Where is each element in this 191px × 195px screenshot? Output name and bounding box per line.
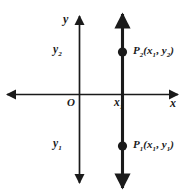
point-label-p1-coord-x: x — [147, 138, 153, 150]
x-axis-label: x — [170, 97, 176, 109]
point-label-p2: P2(x1, y2) — [133, 45, 174, 56]
point-label-p1-subscript: 1 — [140, 145, 143, 152]
point-marker-p2 — [118, 47, 127, 56]
point-label-p2-close-paren: ) — [170, 44, 174, 56]
point-label-p2-coord-y-subscript: 2 — [167, 51, 170, 58]
point-label-p1: P1(x1, y1) — [133, 139, 174, 150]
coordinate-plane-figure: y x O y2 y1 x1 P2(x1, y2) P1(x1, y1) — [0, 0, 191, 195]
point-label-p1-coord-y: y — [162, 138, 167, 150]
point-label-p1-coord-x-subscript: 1 — [153, 145, 156, 152]
point-label-p1-coord-y-subscript: 1 — [167, 145, 170, 152]
tick-label-x1-subscript: 1 — [120, 103, 124, 111]
point-label-p2-subscript: 2 — [140, 51, 143, 58]
origin-label: O — [67, 97, 75, 108]
tick-label-y1: y1 — [53, 138, 62, 150]
point-label-p1-name: P — [133, 138, 140, 150]
point-label-p1-comma: , — [156, 138, 159, 150]
point-label-p2-comma: , — [156, 44, 159, 56]
point-label-p2-coord-x-subscript: 1 — [153, 51, 156, 58]
point-label-p2-name: P — [133, 44, 140, 56]
tick-label-y2-subscript: 2 — [58, 50, 62, 58]
point-label-p1-close-paren: ) — [170, 138, 174, 150]
tick-label-x1-base: x — [114, 96, 120, 108]
y-axis-label: y — [63, 13, 68, 25]
diagram-canvas — [0, 0, 191, 195]
point-label-p2-coord-y: y — [162, 44, 167, 56]
tick-label-y2: y2 — [53, 44, 62, 56]
tick-label-y1-subscript: 1 — [58, 144, 62, 152]
tick-label-x1: x1 — [114, 97, 123, 109]
point-marker-p1 — [118, 141, 127, 150]
point-label-p2-coord-x: x — [147, 44, 153, 56]
